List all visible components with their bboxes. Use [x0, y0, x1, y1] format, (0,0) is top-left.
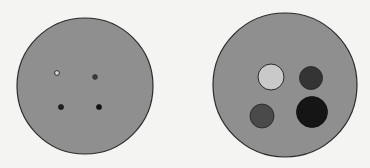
left-spot-bottom-left: [58, 104, 63, 109]
right-spot-top-right: [300, 67, 323, 90]
right-spot-bottom-right: [297, 97, 328, 128]
left-spot-top-left: [55, 71, 60, 76]
left-spot-top-right: [93, 75, 98, 80]
left-spot-bottom-right: [96, 104, 101, 109]
right-spot-bottom-left: [250, 104, 274, 128]
left-disk-group: [17, 18, 153, 154]
right-disk: [213, 13, 357, 157]
figure-canvas: [0, 0, 370, 168]
right-disk-group: [213, 13, 357, 157]
right-spot-top-left: [258, 64, 284, 90]
left-disk: [17, 18, 153, 154]
